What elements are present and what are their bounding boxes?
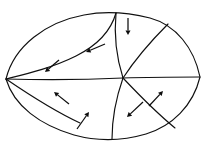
boundary-group [6,13,200,140]
outer-lens-boundary [6,13,200,140]
vector-field-figure [0,0,205,147]
figure-canvas [0,0,205,147]
